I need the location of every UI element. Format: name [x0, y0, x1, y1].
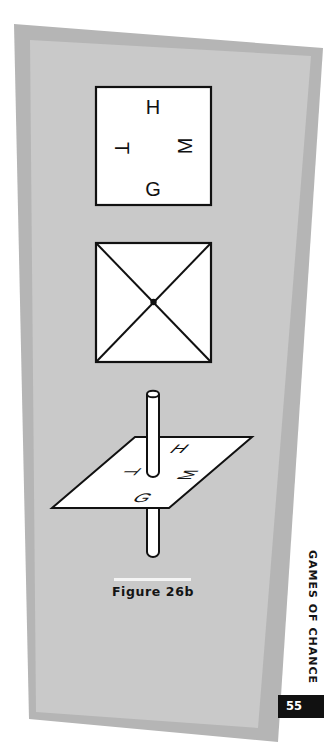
page-number: 55 — [278, 695, 310, 718]
spinner-rod-lower — [147, 505, 159, 557]
spinner-rod-upper — [147, 394, 159, 477]
label-m: M — [174, 138, 196, 155]
lettered-square: H G T M — [96, 87, 211, 205]
section-title: GAMES OF CHANCE — [306, 550, 319, 684]
caption-rule — [114, 578, 191, 581]
label-h: H — [146, 96, 160, 118]
center-dot — [150, 299, 156, 305]
figure-caption: Figure 26b — [100, 584, 206, 599]
page-number-box: 55 — [278, 695, 324, 718]
label-g: G — [145, 178, 161, 200]
diagonal-square — [96, 243, 211, 362]
label-t: T — [111, 142, 133, 154]
spinner-rod-cap — [147, 391, 159, 398]
page-background: H G T M H G T M — [0, 0, 324, 747]
